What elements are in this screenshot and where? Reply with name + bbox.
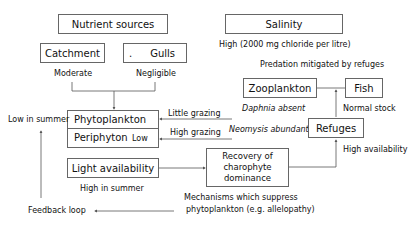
salinity-level: High (2000 mg chloride per litre) — [219, 40, 351, 49]
catchment-level: Moderate — [54, 69, 92, 78]
light-high-label: High in summer — [80, 184, 144, 193]
feedback-loop-label: Feedback loop — [28, 206, 86, 215]
gulls-label: Gulls — [150, 48, 175, 59]
salinity-box: Salinity — [225, 14, 343, 34]
fish-label: Fish — [354, 83, 373, 94]
catchment-label: Catchment — [45, 48, 100, 59]
algae-divider — [68, 128, 158, 129]
phyto-low-label: Low in summer — [8, 115, 69, 124]
gulls-dot: . — [129, 48, 132, 59]
nutrient-sources-box: Nutrient sources — [58, 14, 168, 34]
phytoplankton-label: Phytoplankton — [74, 114, 146, 125]
daphnia-label: Daphnia absent — [242, 104, 305, 113]
recovery-line-3: dominance — [224, 173, 271, 184]
gulls-box: . Gulls — [123, 43, 187, 63]
refuges-label: Refuges — [316, 123, 356, 134]
refuges-availability-label: High availability — [343, 145, 407, 154]
refuges-box: Refuges — [308, 118, 364, 138]
light-availability-label: Light availability — [72, 163, 155, 174]
gulls-level: Negligible — [136, 69, 176, 78]
recovery-line-2: charophyte — [223, 162, 271, 173]
high-grazing-label: High grazing — [170, 128, 221, 137]
predation-label: Predation mitigated by refuges — [260, 60, 384, 69]
periphyton-level: Low — [132, 134, 148, 143]
mechanisms-line-1: Mechanisms which suppress — [184, 193, 298, 202]
neomysis-label: Neomysis abundant — [229, 125, 309, 134]
catchment-box: Catchment — [40, 43, 105, 63]
zooplankton-box: Zooplankton — [243, 78, 317, 98]
zooplankton-label: Zooplankton — [249, 83, 312, 94]
little-grazing-label: Little grazing — [168, 109, 220, 118]
fish-box: Fish — [345, 78, 383, 98]
nutrient-sources-label: Nutrient sources — [72, 19, 155, 30]
light-availability-box: Light availability — [67, 158, 159, 178]
recovery-line-1: Recovery of — [222, 151, 272, 162]
salinity-label: Salinity — [266, 19, 303, 30]
algae-box: Phytoplankton Periphyton Low — [67, 110, 159, 148]
periphyton-label: Periphyton — [74, 132, 128, 143]
mechanisms-line-2: phytoplankton (e.g. allelopathy) — [186, 205, 315, 214]
recovery-box: Recovery of charophyte dominance — [206, 148, 289, 187]
fish-stock-label: Normal stock — [343, 104, 396, 113]
